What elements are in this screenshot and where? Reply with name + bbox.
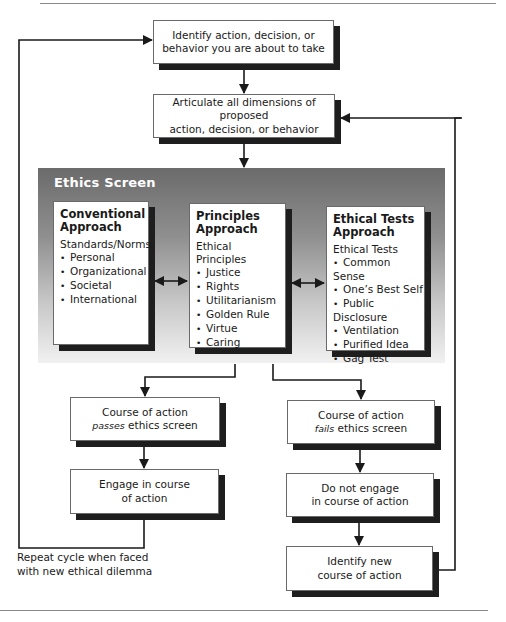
do-not-engage-line2: in course of action bbox=[311, 495, 408, 509]
articulate-line2: action, decision, or behavior bbox=[160, 123, 328, 137]
caption-line2: with new ethical dilemma bbox=[17, 565, 152, 579]
list-item: One’s Best Self bbox=[333, 283, 424, 297]
passes-emphasis: passes bbox=[92, 420, 125, 431]
caption-line1: Repeat cycle when faced bbox=[17, 551, 152, 565]
identify-new-line1: Identify new bbox=[317, 555, 401, 569]
passes-line1: Course of action bbox=[92, 406, 198, 420]
passes-line2: passes ethics screen bbox=[92, 419, 198, 433]
list-item: Societal bbox=[60, 279, 148, 293]
list-item: Ventilation bbox=[333, 324, 424, 338]
identify-new-course-box: Identify new course of action bbox=[286, 546, 433, 591]
principles-approach-box: Principles Approach Ethical Principles J… bbox=[189, 203, 286, 348]
list-item: International bbox=[60, 293, 148, 307]
fails-line1: Course of action bbox=[315, 409, 407, 423]
list-item: Rights bbox=[196, 280, 285, 294]
conventional-title-2: Approach bbox=[60, 221, 148, 234]
fails-emphasis: fails bbox=[315, 423, 334, 434]
list-item: Virtue bbox=[196, 322, 285, 336]
fails-line2: fails ethics screen bbox=[315, 422, 407, 436]
list-item: Personal bbox=[60, 251, 148, 265]
ethical-tests-subtitle: Ethical Tests bbox=[333, 243, 424, 256]
list-item: Common Sense bbox=[333, 256, 424, 283]
ethical-tests-title-2: Approach bbox=[333, 226, 424, 239]
list-item: Gag Test bbox=[333, 352, 424, 366]
principles-subtitle: Ethical Principles bbox=[196, 240, 285, 266]
list-item: Caring bbox=[196, 336, 285, 350]
fails-line2-rest: ethics screen bbox=[334, 422, 407, 434]
engage-line1: Engage in course bbox=[99, 478, 190, 492]
fails-screen-box: Course of action fails ethics screen bbox=[287, 400, 435, 444]
list-item: Purified Idea bbox=[333, 338, 424, 352]
do-not-engage-line1: Do not engage bbox=[311, 482, 408, 496]
principles-list: Justice Rights Utilitarianism Golden Rul… bbox=[196, 266, 285, 350]
engage-action-box: Engage in course of action bbox=[70, 469, 219, 514]
conventional-approach-box: Conventional Approach Standards/Norms Pe… bbox=[53, 201, 149, 345]
identify-new-line2: course of action bbox=[317, 569, 401, 583]
identify-action-line1: Identify action, decision, or bbox=[162, 29, 325, 43]
conventional-subtitle: Standards/Norms bbox=[60, 238, 148, 251]
repeat-cycle-caption: Repeat cycle when faced with new ethical… bbox=[17, 551, 152, 578]
list-item: Golden Rule bbox=[196, 308, 285, 322]
list-item: Organizational bbox=[60, 265, 148, 279]
passes-screen-box: Course of action passes ethics screen bbox=[70, 397, 220, 441]
engage-line2: of action bbox=[99, 492, 190, 506]
list-item: Utilitarianism bbox=[196, 294, 285, 308]
list-item: Justice bbox=[196, 266, 285, 280]
list-item: Public Disclosure bbox=[333, 297, 424, 324]
passes-line2-rest: ethics screen bbox=[125, 419, 198, 431]
principles-title-2: Approach bbox=[196, 223, 285, 236]
articulate-line1: Articulate all dimensions of proposed bbox=[160, 96, 328, 123]
identify-action-box: Identify action, decision, or behavior y… bbox=[153, 20, 334, 64]
conventional-list: Personal Organizational Societal Interna… bbox=[60, 251, 148, 307]
ethical-tests-approach-box: Ethical Tests Approach Ethical Tests Com… bbox=[326, 206, 425, 351]
ethical-tests-list: Common Sense One’s Best Self Public Disc… bbox=[333, 256, 424, 366]
articulate-dimensions-box: Articulate all dimensions of proposed ac… bbox=[153, 94, 335, 138]
do-not-engage-box: Do not engage in course of action bbox=[286, 473, 434, 517]
identify-action-line2: behavior you are about to take bbox=[162, 42, 325, 56]
